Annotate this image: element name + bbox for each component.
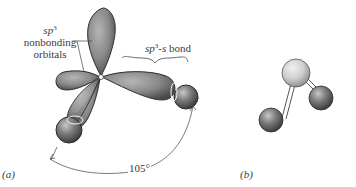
hydrogen-sphere-right	[174, 85, 198, 109]
panel-b-label: (b)	[240, 168, 253, 180]
sp-text: sp	[145, 42, 155, 54]
water-ball-model	[259, 59, 333, 132]
hydrogen-sphere-lower	[56, 117, 82, 143]
nonbonding-label: sp3 nonbonding orbitals	[20, 24, 80, 60]
nonbonding-orbital-top	[88, 8, 116, 76]
superscript: 3	[53, 24, 57, 32]
hydrogen-atom-right	[309, 86, 333, 110]
bonding-orbital-right	[102, 72, 175, 100]
panel-a-label: (a)	[2, 168, 15, 180]
hydrogen-atom-left	[259, 108, 283, 132]
nucleus	[99, 75, 104, 80]
bond-brace	[122, 56, 188, 63]
sp-text: sp	[43, 24, 53, 36]
oxygen-atom	[282, 59, 310, 87]
bond-text: bond	[166, 42, 191, 54]
angle-label: 105°	[128, 162, 151, 174]
nonbonding-text: nonbonding	[20, 36, 80, 48]
bond-label: sp3-s bond	[145, 42, 191, 54]
superscript: 3	[155, 42, 159, 50]
orbitals-text: orbitals	[20, 48, 80, 60]
